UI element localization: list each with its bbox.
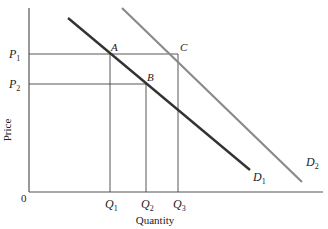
q3-label: Q3 — [173, 197, 186, 213]
point-c-label: C — [180, 41, 188, 53]
point-a-label: A — [110, 41, 118, 53]
demand-curve-d2 — [122, 8, 302, 182]
q2-label: Q2 — [141, 197, 154, 213]
p1-label: P1 — [8, 47, 20, 63]
d1-label: D1 — [252, 170, 266, 186]
point-b-label: B — [147, 71, 154, 83]
y-axis-title: Price — [1, 119, 13, 142]
x-axis-title: Quantity — [136, 214, 175, 226]
d2-label: D2 — [305, 155, 319, 171]
q1-label: Q1 — [105, 197, 118, 213]
demand-shift-diagram: P1 P2 Price 0 Q1 Q2 Q3 Quantity A B C D1… — [0, 0, 328, 229]
origin-label: 0 — [21, 192, 27, 204]
p2-label: P2 — [8, 77, 20, 93]
demand-curve-d1 — [68, 18, 250, 170]
